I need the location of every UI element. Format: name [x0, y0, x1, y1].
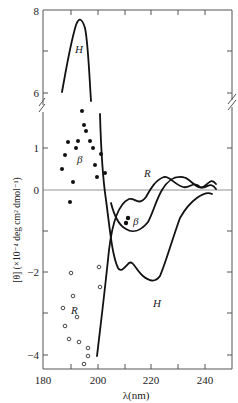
- series-labels: H β R β R H: [70, 43, 162, 316]
- label-h-lower: H: [152, 297, 162, 309]
- x-tick-240: 240: [197, 374, 214, 386]
- label-beta-curve: β: [132, 215, 139, 227]
- x-tick-220: 220: [143, 374, 160, 386]
- y-axis-label: [θ] (×10⁻⁴ deg cm² dmol⁻¹): [12, 177, 23, 282]
- y-tick-0: 0: [34, 184, 40, 196]
- y-tick-6: 6: [34, 87, 40, 99]
- x-axis-label: λ(nm): [123, 389, 150, 402]
- series-h-upper-curve: [62, 20, 91, 101]
- series-h-lower-curve: [100, 114, 212, 281]
- y-tick-8: 8: [34, 5, 40, 17]
- cd-spectrum-chart: 8 6 1 0 −2 −4 180 200 220 240 λ(nm) [θ] …: [0, 0, 238, 403]
- axis-break-marks: [39, 94, 236, 112]
- label-r-curve: R: [143, 167, 151, 179]
- x-tick-labels: 180 200 220 240: [35, 374, 214, 386]
- x-tick-200: 200: [90, 374, 107, 386]
- y-tick-1: 1: [34, 142, 40, 154]
- label-h-upper: H: [74, 43, 84, 55]
- x-tick-180: 180: [35, 374, 52, 386]
- y-tick-minus2: −2: [27, 266, 39, 278]
- y-tick-minus4: −4: [27, 349, 39, 361]
- series-r-points: [61, 265, 102, 366]
- label-r-points: R: [70, 304, 78, 316]
- label-beta-points: β: [76, 153, 83, 165]
- x-ticks: [71, 10, 205, 369]
- y-tick-labels: 8 6 1 0 −2 −4: [27, 5, 39, 361]
